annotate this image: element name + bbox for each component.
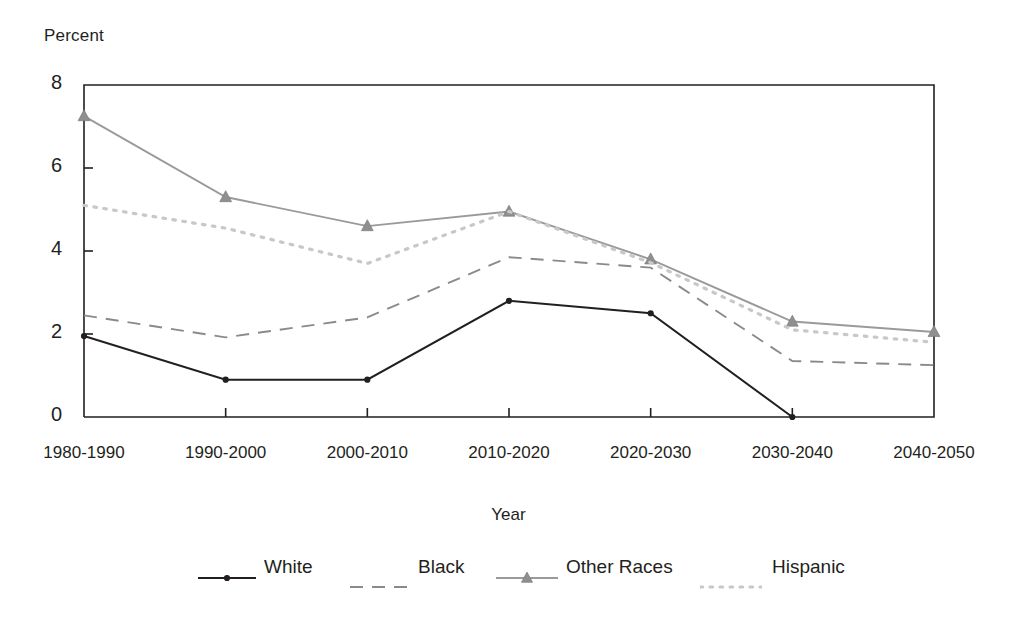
y-axis-tick-label: 0: [22, 403, 62, 426]
plot-canvas: [0, 0, 1017, 621]
y-axis-tick-label: 4: [22, 237, 62, 260]
series-marker-dot: [506, 298, 512, 304]
plot-frame: [84, 85, 934, 417]
series-marker-triangle: [220, 191, 232, 202]
x-axis-title: Year: [491, 505, 525, 525]
y-axis-tick-label: 2: [22, 320, 62, 343]
x-axis-tick-label: 2000-2010: [292, 443, 442, 463]
line-chart-figure: Percent 86420 1980-19901990-20002000-201…: [0, 0, 1017, 621]
x-axis-tick-label: 2030-2040: [717, 443, 867, 463]
series-marker-dot: [648, 310, 654, 316]
series-marker-dot: [223, 377, 229, 383]
series-marker-dot: [789, 414, 795, 420]
legend-item-hispanic[interactable]: Hispanic: [0, 552, 1017, 598]
series-marker-dot: [364, 377, 370, 383]
series-line-white: [84, 301, 792, 417]
x-axis-tick-label: 2010-2020: [434, 443, 584, 463]
x-axis-title-wrap: Year: [0, 505, 1017, 525]
x-axis-tick-label: 1980-1990: [9, 443, 159, 463]
legend-label: Hispanic: [772, 556, 845, 578]
y-axis-tick-label: 8: [22, 71, 62, 94]
legend-swatch-hispanic: [700, 579, 762, 595]
series-marker-triangle: [78, 110, 90, 121]
series-marker-dot: [81, 333, 87, 339]
data-series-layer: [78, 110, 940, 420]
y-axis-tick-label: 6: [22, 154, 62, 177]
chart-legend: WhiteBlackOther RacesHispanic: [0, 552, 1017, 598]
x-axis-tick-label: 2020-2030: [576, 443, 726, 463]
x-axis-tick-label: 1990-2000: [151, 443, 301, 463]
axis-lines: [84, 85, 934, 417]
x-axis-tick-label: 2040-2050: [859, 443, 1009, 463]
series-line-black: [84, 257, 934, 365]
